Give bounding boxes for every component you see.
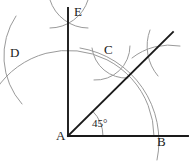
angle-label-45: 45° xyxy=(92,118,107,129)
main-arc-centered-at-A xyxy=(0,50,154,136)
straightedge-lines xyxy=(68,8,188,136)
point-label-D: D xyxy=(10,46,19,59)
cross-arc-right-flat xyxy=(132,45,180,58)
point-label-B: B xyxy=(157,135,166,148)
cross-arc-E-left xyxy=(50,0,88,28)
point-label-E: E xyxy=(74,5,82,18)
geometry-figure: A B C D E 45° xyxy=(0,0,190,162)
arc-from-B xyxy=(80,48,159,160)
cross-arc-E-right xyxy=(50,0,88,28)
point-label-C: C xyxy=(104,43,113,56)
point-label-A: A xyxy=(56,129,65,142)
arc-from-D xyxy=(4,16,22,104)
